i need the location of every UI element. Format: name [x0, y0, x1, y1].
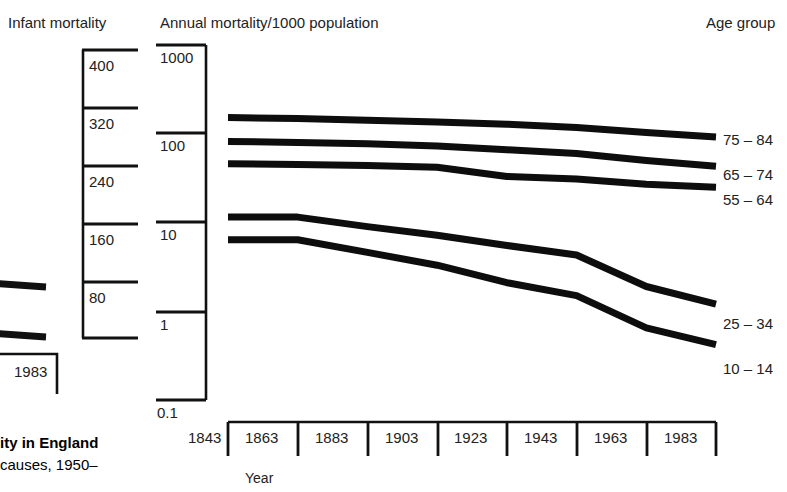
chart-series-line — [228, 164, 716, 188]
x-tick-label-1963: 1963 — [594, 429, 627, 446]
legend-label-25-34: 25 – 34 — [723, 315, 773, 332]
legend-label-75-84: 75 – 84 — [723, 131, 773, 148]
chart-series-line — [228, 240, 716, 345]
x-tick-label-1863: 1863 — [245, 429, 278, 446]
chart-series-line — [228, 118, 716, 137]
x-axis-title: Year — [245, 470, 273, 486]
x-tick-label-1923: 1923 — [454, 429, 487, 446]
x-tick-label-1943: 1943 — [524, 429, 557, 446]
x-tick-label-1843: 1843 — [188, 429, 221, 446]
legend-label-10-14: 10 – 14 — [723, 360, 773, 377]
legend-label-55-64: 55 – 64 — [723, 191, 773, 208]
x-tick-label-1983: 1983 — [664, 429, 697, 446]
chart-plot-area — [0, 0, 787, 492]
chart-series-group — [228, 118, 716, 345]
legend-label-65-74: 65 – 74 — [723, 166, 773, 183]
x-tick-label-1883: 1883 — [315, 429, 348, 446]
chart-series-line — [228, 217, 716, 304]
x-tick-label-1903: 1903 — [385, 429, 418, 446]
figure-root: 1983 ity in England causes, 1950– Infant… — [0, 0, 787, 492]
